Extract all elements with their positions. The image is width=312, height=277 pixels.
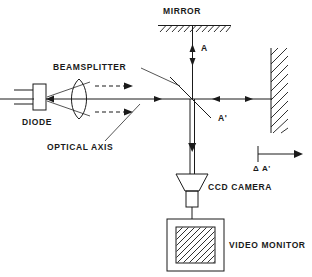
ccd-camera-label: CCD CAMERA <box>208 182 272 192</box>
beam-a-prime-label: A' <box>218 113 227 123</box>
mirror-label: MIRROR <box>163 6 201 16</box>
horizontal-optical-axis <box>0 96 272 102</box>
optical-diagram: A A' DIODE <box>0 0 312 277</box>
optical-axis-leader-line <box>105 104 140 141</box>
video-monitor-component <box>167 219 224 271</box>
mirror-component <box>158 26 231 33</box>
beam-a-label: A <box>201 43 208 53</box>
beamsplitter-leader-line <box>141 68 180 86</box>
beamsplitter-label: BEAMSPLITTER <box>53 62 126 72</box>
delta-a-prime-label: Δ A' <box>253 164 271 173</box>
mirror-hatching <box>160 26 231 32</box>
diode-label: DIODE <box>22 117 52 127</box>
ccd-camera-component <box>176 174 208 219</box>
monitor-screen-hatching <box>176 227 216 266</box>
target-wall-component <box>271 48 288 133</box>
delta-a-prime-measure <box>258 146 303 162</box>
vertical-beam-lower <box>188 99 196 174</box>
wall-hatching <box>271 48 288 133</box>
video-monitor-label: VIDEO MONITOR <box>229 240 306 250</box>
optical-axis-label: OPTICAL AXIS <box>47 142 113 152</box>
vertical-beam-upper <box>190 26 196 100</box>
diagram-canvas: A A' DIODE <box>0 0 312 277</box>
